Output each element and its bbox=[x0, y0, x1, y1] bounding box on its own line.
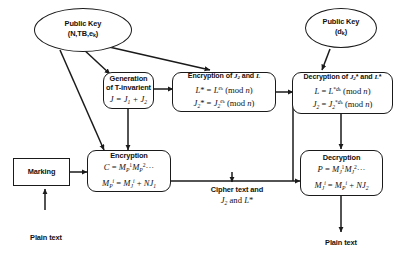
encryption-jl-eq2: J2* = J2ek (mod n) bbox=[194, 96, 255, 112]
label-plain-text-out: Plain text bbox=[305, 238, 377, 248]
public-key-left-line1: Public Key bbox=[65, 19, 102, 28]
encryption-eq1: C = MP1MP2··· bbox=[104, 160, 154, 176]
wire-pubkey-right-to-decryption-jl bbox=[322, 49, 330, 70]
node-marking[interactable]: Marking bbox=[13, 158, 70, 186]
decryption-eq2: MJi = MPi + NJ2 bbox=[314, 178, 368, 194]
label-plain-text-in: Plain text bbox=[10, 233, 82, 243]
generation-equation: J = J1 + J2 bbox=[110, 94, 147, 107]
label-cipher-text-line2: J2 and L* bbox=[185, 195, 289, 208]
node-decryption-j2-l[interactable]: Decryption of J2* and L* L = L*dk (mod n… bbox=[292, 72, 393, 114]
encryption-title: Encryption bbox=[110, 151, 148, 160]
node-decryption[interactable]: Decryption P = MJ1MJ2··· MJi = MPi + NJ2 bbox=[300, 150, 383, 196]
wire-pubkey-to-encryption-jl bbox=[96, 44, 210, 70]
encryption-jl-title: Encryption of J2 and L bbox=[188, 72, 260, 83]
node-encryption-j2-l[interactable]: Encryption of J2 and L L* = Lek (mod n) … bbox=[172, 72, 276, 112]
wire-pubkey-to-encryption bbox=[60, 50, 104, 150]
encryption-jl-eq1: L* = Lek (mod n) bbox=[195, 83, 252, 96]
label-cipher-text-line1: Cipher text and bbox=[185, 185, 289, 195]
node-public-key-right[interactable]: Public Key (dk) bbox=[305, 8, 377, 48]
marking-label: Marking bbox=[28, 167, 56, 176]
diagram-canvas: Public Key (N,TB,ek) Public Key (dk) Gen… bbox=[0, 0, 399, 265]
generation-line2: of T-invarient bbox=[106, 83, 151, 92]
node-generation-t-invariant[interactable]: Generation of T-invarient J = J1 + J2 bbox=[103, 72, 154, 109]
decryption-jl-eq1: L = L*dk (mod n) bbox=[314, 84, 370, 97]
public-key-left-line2: (N,TB,ek) bbox=[68, 29, 98, 41]
node-encryption[interactable]: Encryption C = MP1MP2··· MPi = MJi + NJ1 bbox=[87, 150, 171, 192]
decryption-jl-eq2: J2 = J2*dk (mod n) bbox=[313, 97, 373, 113]
decryption-eq1: P = MJ1MJ2··· bbox=[318, 162, 366, 178]
encryption-eq2: MPi = MJi + NJ1 bbox=[102, 176, 156, 192]
public-key-right-line2: (dk) bbox=[335, 27, 347, 39]
generation-line1: Generation bbox=[109, 74, 147, 83]
node-public-key-left[interactable]: Public Key (N,TB,ek) bbox=[34, 8, 132, 52]
decryption-title: Decryption bbox=[323, 153, 361, 162]
decryption-jl-title: Decryption of J2* and L* bbox=[304, 73, 382, 84]
public-key-right-line1: Public Key bbox=[323, 17, 360, 26]
